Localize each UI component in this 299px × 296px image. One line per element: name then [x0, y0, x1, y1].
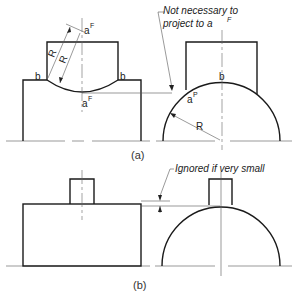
base-outline-left [23, 80, 47, 141]
base-block-b [23, 204, 141, 266]
label-b-side: b [219, 71, 225, 82]
note-b: Ignored if very small [158, 163, 265, 213]
semicircle [163, 83, 280, 141]
upper-block-side [186, 42, 257, 94]
intersection-curve [47, 80, 118, 92]
note-line-2: project to a [162, 18, 213, 29]
view-b-side [162, 172, 280, 276]
caption-a: (a) [131, 149, 144, 161]
note-a: Not necessary to project to a F [158, 5, 238, 91]
label-R-side: R [196, 121, 203, 132]
svg-text:F: F [227, 16, 232, 23]
caption-b: (b) [133, 279, 146, 291]
label-b-left: b [35, 71, 41, 82]
svg-text:F: F [90, 22, 94, 29]
technical-drawing: b b R R a F a F R b a P Not necessary to… [0, 0, 299, 296]
view-a-front: b b R R a F a F [6, 18, 292, 141]
note-b-leader [160, 169, 174, 196]
view-b-front [6, 170, 292, 266]
view-a-side: R b a P [163, 30, 280, 150]
label-b-right: b [120, 71, 126, 82]
svg-text:F: F [88, 95, 92, 102]
base-outline-right [118, 80, 141, 141]
svg-text:P: P [193, 91, 198, 98]
note-line-1: Not necessary to [163, 5, 238, 16]
note-b-text: Ignored if very small [175, 163, 265, 174]
small-block-side-b [209, 179, 232, 205]
